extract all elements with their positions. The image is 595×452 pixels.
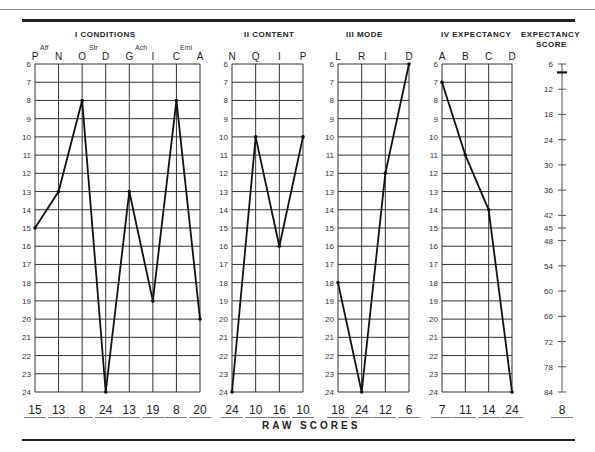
category-label: D: [508, 51, 515, 62]
y-tick-label: 8: [27, 96, 32, 105]
raw-score: 6: [398, 404, 420, 418]
category-label: O: [78, 51, 86, 62]
category-label: A: [439, 51, 446, 62]
y-tick-label: 8: [224, 96, 229, 105]
data-point: [301, 135, 305, 139]
raw-scores-label: RAW SCORES: [262, 420, 360, 431]
raw-score: 8: [71, 404, 93, 418]
raw-score: 24: [221, 404, 243, 418]
y-tick-label: 17: [219, 260, 228, 269]
y-tick-label: 10: [429, 133, 438, 142]
profile-line-expectancy: [442, 82, 512, 392]
y-tick-label: 19: [429, 297, 438, 306]
y-tick-label: 9: [224, 115, 229, 124]
data-point: [360, 390, 364, 394]
raw-score: 16: [268, 404, 290, 418]
y-tick-label: 23: [22, 370, 31, 379]
y-tick-label: 10: [219, 133, 228, 142]
expectancy-score-tick-label: 24: [544, 136, 553, 145]
y-tick-label: 24: [22, 388, 31, 397]
category-label: L: [335, 51, 341, 62]
y-tick-label: 21: [325, 333, 334, 342]
raw-score: 24: [351, 404, 373, 418]
y-tick-label: 21: [429, 333, 438, 342]
raw-score: 10: [292, 404, 314, 418]
data-point: [127, 190, 131, 194]
expectancy-score-tick-label: 30: [544, 161, 553, 170]
y-tick-label: 14: [22, 206, 31, 215]
raw-score: 12: [374, 404, 396, 418]
y-tick-label: 11: [23, 151, 32, 160]
y-tick-label: 11: [430, 151, 439, 160]
y-tick-label: 8: [434, 96, 439, 105]
raw-score: 8: [165, 404, 187, 418]
y-tick-label: 22: [219, 352, 228, 361]
y-tick-label: 15: [429, 224, 438, 233]
data-point: [104, 390, 108, 394]
y-tick-label: 8: [330, 96, 335, 105]
y-tick-label: 21: [219, 333, 228, 342]
y-tick-label: 13: [429, 188, 438, 197]
y-tick-label: 11: [326, 151, 335, 160]
expectancy-score-value: 8: [551, 404, 573, 418]
category-label: Q: [252, 51, 260, 62]
y-tick-label: 15: [219, 224, 228, 233]
expectancy-score-tick-label: 12: [544, 85, 553, 94]
data-point: [57, 190, 61, 194]
expectancy-score-tick-label: 66: [544, 312, 553, 321]
data-point: [487, 208, 491, 212]
expectancy-score-tick-label: 48: [544, 237, 553, 246]
y-tick-label: 18: [429, 279, 438, 288]
expectancy-score-tick-label: 42: [544, 211, 553, 220]
y-tick-label: 18: [22, 279, 31, 288]
expectancy-score-tick-label: 45: [544, 224, 553, 233]
data-point: [175, 99, 179, 103]
raw-score: 7: [431, 404, 453, 418]
y-tick-label: 14: [219, 206, 228, 215]
expectancy-score-tick-label: 54: [544, 262, 553, 271]
y-tick-label: 13: [22, 188, 31, 197]
y-tick-label: 10: [22, 133, 31, 142]
y-tick-label: 20: [22, 315, 31, 324]
y-tick-label: 15: [325, 224, 334, 233]
y-tick-label: 11: [220, 151, 229, 160]
bottom-rule: [22, 439, 575, 441]
data-point: [151, 299, 155, 303]
y-tick-label: 13: [219, 188, 228, 197]
y-tick-label: 18: [219, 279, 228, 288]
category-label: A: [197, 51, 204, 62]
y-tick-label: 19: [22, 297, 31, 306]
data-point: [278, 244, 282, 248]
category-label: N: [228, 51, 235, 62]
expectancy-score-tick-label: 6: [549, 60, 554, 69]
raw-score: 19: [142, 404, 164, 418]
y-tick-label: 20: [325, 315, 334, 324]
data-point: [80, 99, 84, 103]
y-tick-label: 12: [429, 169, 438, 178]
y-tick-label: 20: [219, 315, 228, 324]
y-tick-label: 7: [434, 78, 439, 87]
data-point: [254, 135, 258, 139]
category-label: G: [125, 51, 133, 62]
y-tick-label: 14: [429, 206, 438, 215]
y-tick-label: 17: [22, 260, 31, 269]
y-tick-label: 16: [219, 242, 228, 251]
y-tick-label: 20: [429, 315, 438, 324]
category-label: I: [151, 51, 154, 62]
y-tick-label: 12: [325, 169, 334, 178]
y-tick-label: 9: [434, 115, 439, 124]
expectancy-score-tick-label: 72: [544, 338, 553, 347]
data-point: [336, 281, 340, 285]
raw-score: 24: [95, 404, 117, 418]
data-point: [510, 390, 514, 394]
raw-score: 15: [24, 404, 46, 418]
category-label: I: [278, 51, 281, 62]
y-tick-label: 22: [22, 352, 31, 361]
data-point: [464, 153, 468, 157]
raw-score: 18: [327, 404, 349, 418]
y-tick-label: 23: [219, 370, 228, 379]
y-tick-label: 7: [330, 78, 335, 87]
y-tick-label: 12: [219, 169, 228, 178]
category-label: N: [55, 51, 62, 62]
y-tick-label: 24: [219, 388, 228, 397]
